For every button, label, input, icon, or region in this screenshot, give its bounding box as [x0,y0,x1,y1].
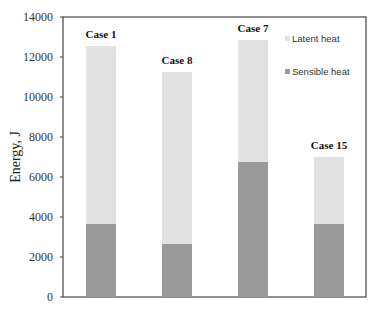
bars-group: Case 1Case 8Case 7Case 15 [86,22,348,297]
bar-segment-latent-heat [86,46,116,224]
bar-segment-sensible-heat [86,224,116,297]
bar-case-label: Case 1 [86,28,117,40]
bar-segment-latent-heat [314,157,344,224]
legend: Latent heat Sensible heat [285,33,350,77]
y-tick-label: 6000 [29,170,53,184]
stacked-bar-chart: 02000400060008000100001200014000 Energy,… [0,0,378,314]
legend-swatch-sensible [285,69,290,74]
legend-label-sensible: Sensible heat [292,66,350,77]
bar-segment-sensible-heat [162,244,192,297]
y-axis-title: Energy, J [8,131,23,183]
bar-case-label: Case 7 [238,22,269,34]
y-tick-label: 10000 [23,90,53,104]
y-tick-label: 8000 [29,130,53,144]
y-tick-label: 14000 [23,10,53,24]
bar-segment-sensible-heat [314,224,344,297]
bar-segment-sensible-heat [238,162,268,297]
y-tick-label: 0 [47,290,53,304]
bar-segment-latent-heat [238,40,268,162]
y-tick-label: 4000 [29,210,53,224]
legend-label-latent: Latent heat [292,33,340,44]
y-tick-label: 2000 [29,250,53,264]
y-axis-ticks: 02000400060008000100001200014000 [23,10,63,304]
y-tick-label: 12000 [23,50,53,64]
bar-case-label: Case 8 [162,54,193,66]
bar-segment-latent-heat [162,72,192,244]
legend-swatch-latent [285,36,290,41]
bar-case-label: Case 15 [311,139,348,151]
